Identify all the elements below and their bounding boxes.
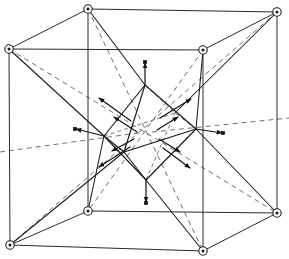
octa-edge-OB-OL	[104, 136, 146, 180]
cube-edge-TLB-TRB	[88, 9, 277, 12]
arrow-inner-right	[157, 117, 178, 130]
corner-atom-markers	[5, 5, 281, 255]
crystal-structure-figure	[0, 0, 289, 259]
corner-bonds	[9, 9, 277, 251]
octahedron-edges	[104, 85, 196, 180]
bond-BLF-OF	[10, 152, 124, 245]
corner-atom-center	[202, 49, 205, 52]
cube-edge-BRB-BLB	[88, 211, 277, 213]
atom-left	[73, 127, 76, 130]
cube-edge-TLB-TLF	[9, 9, 88, 49]
axis-body-diagonal-ne-sw	[10, 12, 277, 245]
corner-atom-bottom-right-back	[273, 209, 281, 217]
octahedron-hidden-edges	[104, 85, 196, 180]
corner-atom-top-left-front	[5, 45, 13, 53]
axis-body-diagonal-nw-se	[88, 9, 203, 251]
atom-bottom	[144, 201, 147, 204]
corner-atom-center	[8, 48, 11, 51]
structure-diagram-svg	[0, 0, 289, 259]
corner-atom-center	[9, 244, 12, 247]
bond-TLF-OL	[9, 49, 104, 136]
corner-atom-center	[87, 210, 90, 213]
atom-right	[221, 131, 224, 134]
cube-edge-BRF-BLF	[10, 245, 203, 251]
corner-atom-center	[87, 8, 90, 11]
corner-atom-bottom-left-front	[6, 241, 14, 249]
cube-edge-TLF-TRF	[9, 49, 203, 50]
octa-edge-OB-OF	[124, 152, 146, 180]
corner-atom-top-left-back	[84, 5, 92, 13]
axis-body-diagonal-sw-ne	[9, 49, 277, 213]
corner-atom-center	[276, 11, 279, 14]
corner-atom-top-right-back	[273, 8, 281, 16]
cube-edge-BLF-TLF	[9, 49, 10, 245]
arrow-center-right	[159, 139, 180, 152]
corner-atom-bottom-left-back	[84, 207, 92, 215]
octa-edge-OT-OR	[145, 85, 196, 129]
corner-atom-center	[276, 212, 279, 215]
dashed-symmetry-axes	[0, 9, 289, 251]
arrow-inner-left	[114, 117, 137, 132]
bond-BRB-OR	[196, 129, 277, 213]
corner-atom-center	[202, 250, 205, 253]
cube-edges	[9, 9, 277, 251]
corner-atom-bottom-right-front	[199, 247, 207, 255]
corner-atom-top-right-front	[199, 46, 207, 54]
bond-TRF-OR	[196, 50, 203, 129]
bond-TRB-OK	[175, 12, 277, 113]
cube-edge-BRB-BRF	[203, 213, 277, 251]
cube-edge-BLB-BLF	[10, 211, 88, 245]
bond-TLB-OT	[88, 9, 145, 85]
atom-top	[143, 60, 146, 63]
